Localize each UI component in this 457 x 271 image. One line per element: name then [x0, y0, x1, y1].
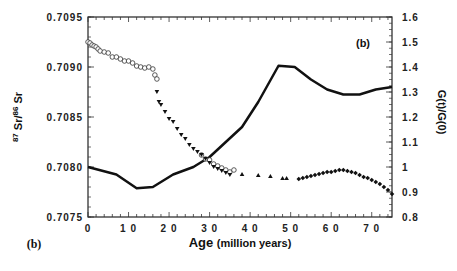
- data-point-diamond: [325, 170, 330, 175]
- y-left-tick-label: 0.7080: [46, 162, 83, 173]
- data-point-down-triangle: [159, 103, 164, 107]
- data-point-down-triangle: [195, 150, 200, 154]
- data-point-down-triangle: [163, 110, 168, 114]
- panel-label: (b): [356, 37, 370, 49]
- y-right-tick-label: 1.3: [402, 87, 419, 98]
- data-point-open-circle: [155, 77, 160, 82]
- x-tick-label: 2 0: [161, 223, 178, 234]
- y-right-tick-label: 1.6: [402, 12, 419, 23]
- y-left-tick-label: 0.7095: [46, 12, 83, 23]
- data-point-down-triangle: [175, 127, 180, 131]
- x-tick-label: 1 0: [120, 223, 137, 234]
- x-axis-label: Age (million years): [189, 235, 292, 250]
- data-point-up-triangle: [284, 176, 289, 180]
- data-point-diamond: [382, 185, 387, 190]
- data-point-up-triangle: [268, 174, 273, 178]
- y-left-tick-label: 0.7085: [46, 112, 83, 123]
- data-point-diamond: [337, 168, 342, 173]
- data-point-down-triangle: [171, 120, 176, 124]
- y-right-tick-label: 1.1: [402, 137, 419, 148]
- data-point-diamond: [313, 173, 318, 178]
- data-point-diamond: [373, 180, 378, 185]
- y-right-tick-label: 1.4: [402, 62, 419, 73]
- x-tick-label: 0: [85, 223, 92, 234]
- data-point-down-triangle: [183, 137, 188, 141]
- data-point-up-triangle: [256, 173, 261, 177]
- y-right-tick-label: 1.2: [402, 112, 419, 123]
- data-point-diamond: [349, 170, 354, 175]
- data-point-diamond: [361, 175, 366, 180]
- data-point-open-circle: [106, 51, 111, 56]
- data-point-diamond: [378, 182, 383, 187]
- data-point-diamond: [345, 169, 350, 174]
- y-right-tick-label: 0.9: [402, 187, 419, 198]
- data-point-diamond: [309, 174, 314, 179]
- x-tick-label: 5 0: [282, 223, 299, 234]
- data-point-down-triangle: [167, 117, 172, 121]
- y-left-tick-label: 0.7090: [46, 62, 83, 73]
- x-tick-label: 4 0: [242, 223, 259, 234]
- data-point-diamond: [341, 168, 346, 173]
- y-right-tick-label: 1.5: [402, 37, 419, 48]
- data-point-diamond: [369, 178, 374, 183]
- data-point-diamond: [305, 175, 310, 180]
- data-point-diamond: [329, 170, 334, 175]
- data-point-down-triangle: [155, 90, 160, 94]
- data-point-open-circle: [130, 61, 135, 66]
- data-point-diamond: [353, 171, 358, 176]
- data-point-diamond: [321, 171, 326, 176]
- data-point-up-triangle: [280, 176, 285, 180]
- data-point-down-triangle: [179, 133, 184, 137]
- plot-area: 01 02 03 04 05 06 07 00.70950.70900.7085…: [11, 12, 448, 251]
- data-point-open-circle: [232, 168, 237, 173]
- x-tick-label: 7 0: [363, 223, 380, 234]
- y-right-tick-label: 1: [402, 162, 409, 173]
- data-point-diamond: [357, 173, 362, 178]
- panel-label-bottom: (b): [27, 237, 42, 251]
- y-right-tick-label: 0.8: [402, 212, 419, 223]
- data-point-up-triangle: [240, 172, 245, 176]
- y-right-axis-label: G(t)/G(0): [436, 90, 448, 135]
- data-point-diamond: [296, 177, 301, 182]
- y-left-tick-label: 0.7075: [46, 212, 83, 223]
- data-point-down-triangle: [228, 173, 233, 177]
- data-point-diamond: [333, 169, 338, 174]
- x-tick-label: 6 0: [323, 223, 340, 234]
- data-point-diamond: [317, 172, 322, 177]
- data-point-diamond: [301, 176, 306, 181]
- data-point-open-circle: [151, 67, 156, 72]
- chart: 01 02 03 04 05 06 07 00.70950.70900.7085…: [0, 0, 457, 271]
- data-point-down-triangle: [191, 147, 196, 151]
- x-tick-label: 3 0: [201, 223, 218, 234]
- data-point-down-triangle: [187, 143, 192, 147]
- data-point-diamond: [365, 176, 370, 181]
- y-left-axis-label: 87 Sr/86 Sr: [11, 91, 24, 142]
